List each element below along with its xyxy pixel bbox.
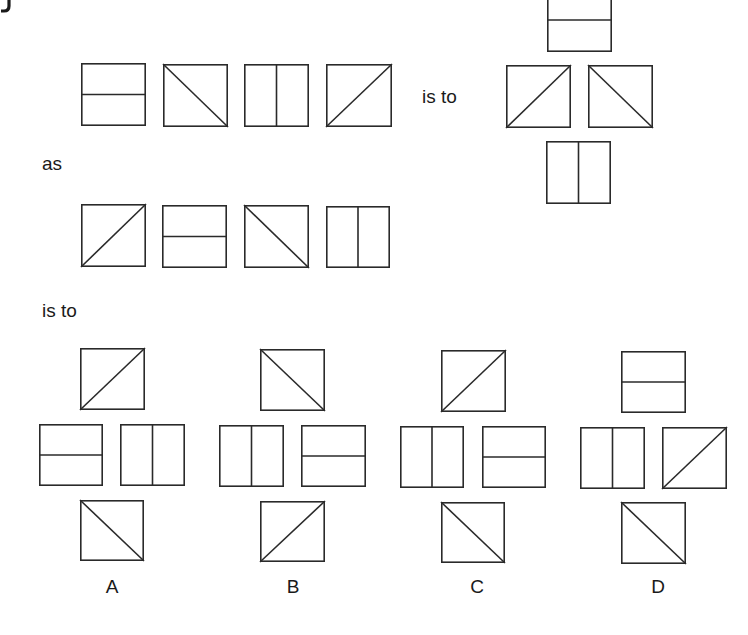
row1-result-bottom-vertical-tile (546, 141, 611, 204)
option-a-bottom-backslash-tile (80, 500, 144, 561)
corner-glyph-fragment (0, 0, 16, 16)
row2-4-vertical-tile (326, 206, 390, 268)
option-a-left-horizontal-tile (39, 424, 103, 486)
connector-as: as (42, 154, 62, 173)
row1-1-horizontal-tile (81, 63, 146, 126)
option-b-bottom-slash-tile (260, 501, 325, 562)
option-c-top-slash-tile (441, 350, 506, 412)
option-b-right-horizontal-tile (301, 425, 366, 487)
option-a-top-slash-tile (80, 348, 145, 410)
option-c-left-vertical-tile (400, 426, 464, 488)
row2-1-slash-tile (81, 204, 146, 267)
option-c-bottom-backslash-tile (441, 502, 505, 563)
option-b-top-backslash-tile (260, 349, 325, 411)
option-d-right-slash-tile (662, 427, 727, 489)
row1-3-vertical-tile (244, 64, 309, 127)
row1-result-left-slash-tile (506, 65, 571, 128)
option-label[interactable]: B (287, 577, 300, 596)
option-d-bottom-backslash-tile (621, 502, 686, 564)
row1-result-top-horizontal-tile (547, 0, 612, 52)
option-label[interactable]: C (470, 577, 484, 596)
option-b-left-vertical-tile (219, 425, 284, 487)
option-label[interactable]: D (651, 577, 665, 596)
row1-4-slash-tile (326, 64, 392, 127)
option-c-right-horizontal-tile (482, 426, 546, 488)
row2-2-horizontal-tile (162, 205, 227, 268)
connector-is-to-1: is to (422, 87, 457, 106)
option-d-top-horizontal-tile (621, 351, 686, 413)
row1-result-right-backslash-tile (588, 65, 653, 128)
option-a-right-vertical-tile (120, 424, 185, 486)
option-d-left-vertical-tile (580, 427, 645, 489)
row1-2-backslash-tile (163, 64, 228, 127)
row2-3-backslash-tile (244, 205, 309, 268)
option-label[interactable]: A (106, 577, 119, 596)
connector-is-to-2: is to (42, 301, 77, 320)
